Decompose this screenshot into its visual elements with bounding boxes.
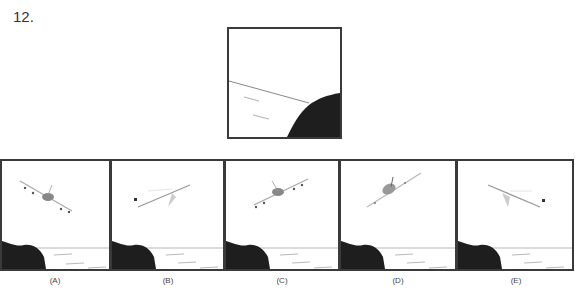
- airplane-icon: [488, 185, 545, 207]
- reference-scene: [229, 29, 340, 137]
- option-e[interactable]: [456, 159, 574, 271]
- option-a[interactable]: [0, 159, 111, 271]
- option-c-label: (C): [262, 276, 302, 285]
- airplane-icon: [20, 181, 72, 213]
- option-a-label: (A): [35, 276, 75, 285]
- option-e-scene: [458, 161, 572, 269]
- option-d-label: (D): [378, 276, 418, 285]
- option-b-scene: [112, 161, 223, 269]
- airplane-icon: [254, 179, 308, 208]
- option-e-label: (E): [496, 276, 536, 285]
- option-d-scene: [341, 161, 455, 269]
- reference-figure: [227, 27, 342, 139]
- option-c-scene: [226, 161, 338, 269]
- airplane-icon: [367, 173, 421, 207]
- airplane-icon: [134, 185, 190, 207]
- option-a-scene: [2, 161, 109, 269]
- option-b[interactable]: [110, 159, 225, 271]
- option-b-label: (B): [148, 276, 188, 285]
- option-d[interactable]: [339, 159, 457, 271]
- question-number: 12.: [13, 8, 34, 25]
- option-c[interactable]: [224, 159, 340, 271]
